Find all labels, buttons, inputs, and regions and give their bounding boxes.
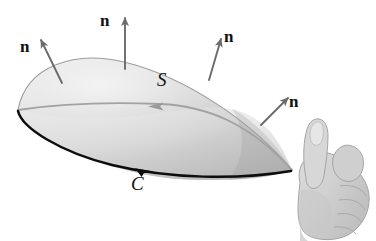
- normal-label-upper-right: n: [224, 28, 233, 45]
- curve-label: C: [131, 174, 144, 193]
- normal-label-right: n: [289, 93, 298, 110]
- right-hand-illustration: [298, 119, 369, 241]
- normal-arrow-upper-right: [209, 39, 221, 80]
- normal-label-left: n: [20, 38, 29, 55]
- figure-canvas: [0, 0, 376, 241]
- normal-label-top: n: [100, 12, 109, 29]
- hand-index-knuckle: [333, 145, 364, 181]
- stokes-theorem-figure: n n n n S C: [0, 0, 376, 241]
- surface-label: S: [157, 70, 167, 89]
- normal-arrow-right: [261, 98, 288, 125]
